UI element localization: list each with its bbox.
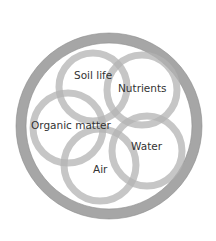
- air-label: Air: [93, 163, 108, 175]
- water-label: Water: [131, 140, 163, 152]
- diagram-canvas: Soil lifeNutrientsOrganic matterAirWater: [0, 0, 216, 241]
- soil-life-label: Soil life: [74, 69, 112, 81]
- nutrients-label: Nutrients: [118, 82, 167, 94]
- soil-health-diagram: Soil lifeNutrientsOrganic matterAirWater: [0, 0, 216, 241]
- organic-matter-label: Organic matter: [31, 119, 112, 131]
